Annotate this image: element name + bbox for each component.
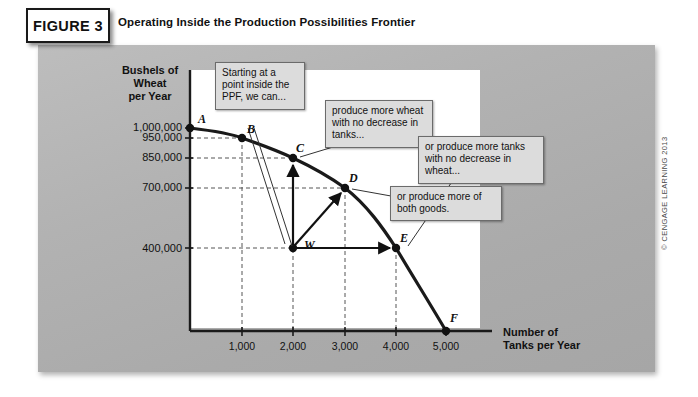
point-label-f: F [450,311,458,326]
leader-more-both [352,189,391,196]
data-points [186,124,450,335]
callout-more-wheat: produce more wheat with no decrease in t… [325,100,433,148]
leader-more-wheat [300,147,333,157]
callout-starting-inside: Starting at a point inside the PPF, we c… [215,62,305,110]
point-label-e: E [400,231,408,246]
point-label-a: A [198,112,206,127]
point-label-b: B [247,122,255,137]
point-w [289,244,297,252]
point-b [238,134,246,142]
point-label-w: W [304,238,315,253]
point-label-c: C [296,141,304,156]
figure-number-badge: FIGURE 3 [26,8,110,43]
point-d [341,184,349,192]
copyright-notice: © CENGAGE LEARNING 2013 [660,136,669,250]
point-f [442,327,450,335]
leader-starting-inside [254,128,292,246]
point-e [392,244,400,252]
chart-svg [0,0,698,397]
point-a [186,124,194,132]
callout-more-tanks: or produce more tanks with no decrease i… [418,136,544,184]
arrow-w-to-d [295,193,341,245]
callout-more-both: or produce more of both goods. [390,186,502,221]
figure-number-label: FIGURE 3 [33,18,103,34]
point-label-d: D [349,171,358,186]
improvement-arrows [293,165,390,248]
